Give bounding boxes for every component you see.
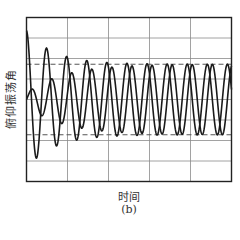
oscillation-curves: [27, 31, 232, 158]
oscillation-curve: [27, 31, 232, 158]
x-axis-label: 时间: [104, 188, 154, 204]
y-axis-label: 俯仰振荡角: [5, 69, 19, 129]
subfigure-label: (b): [104, 203, 154, 216]
